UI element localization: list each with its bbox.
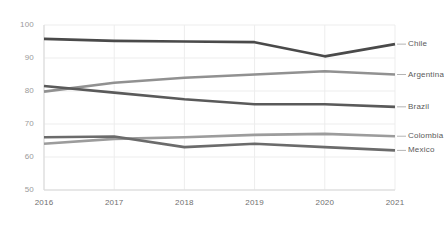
x-tick-label: 2016 xyxy=(24,198,64,207)
line-chart: 1009080706050 201620172018201920202021 C… xyxy=(0,0,444,229)
gridlines xyxy=(44,25,395,190)
series-label-argentina: Argentina xyxy=(408,70,444,79)
y-tick-label: 90 xyxy=(8,53,34,62)
series-line-mexico xyxy=(44,137,395,151)
x-tick-label: 2021 xyxy=(375,198,415,207)
x-tick-label: 2020 xyxy=(305,198,345,207)
series-label-mexico: Mexico xyxy=(408,145,435,154)
axis-lines xyxy=(44,25,395,190)
y-tick-label: 70 xyxy=(8,119,34,128)
series-label-chile: Chile xyxy=(408,39,427,48)
x-tick-label: 2018 xyxy=(164,198,204,207)
plot-area xyxy=(0,0,444,229)
series-line-argentina xyxy=(44,71,395,91)
y-tick-label: 100 xyxy=(8,20,34,29)
legend-connectors xyxy=(397,44,406,150)
y-tick-label: 50 xyxy=(8,185,34,194)
y-tick-label: 80 xyxy=(8,86,34,95)
series-lines xyxy=(44,39,395,151)
series-line-chile xyxy=(44,39,395,56)
x-tick-label: 2017 xyxy=(94,198,134,207)
series-line-colombia xyxy=(44,134,395,144)
series-label-brazil: Brazil xyxy=(408,102,429,111)
y-tick-label: 60 xyxy=(8,152,34,161)
x-tick-label: 2019 xyxy=(235,198,275,207)
series-label-colombia: Colombia xyxy=(408,131,443,140)
series-line-brazil xyxy=(44,86,395,107)
